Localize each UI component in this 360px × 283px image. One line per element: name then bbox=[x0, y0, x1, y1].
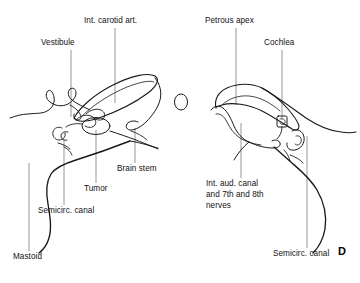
semicircular-canal-loop-a bbox=[53, 127, 65, 140]
iac-inner-contour bbox=[216, 114, 261, 145]
label-cochlea: Cochlea bbox=[264, 38, 294, 49]
semicircular-canal-loop-b bbox=[61, 132, 68, 141]
label-int-aud-canal-line2: and 7th and 8th bbox=[206, 190, 264, 201]
isolated-oval-structure bbox=[175, 94, 188, 110]
mastoid-air-cell-mark bbox=[64, 147, 72, 155]
right-panel-anatomy bbox=[211, 84, 356, 253]
mastoid-skin-contour-right bbox=[274, 147, 326, 253]
neck-line-left-panel bbox=[130, 141, 158, 149]
label-semicirc-canal-right: Semicirc. canal bbox=[273, 249, 329, 260]
panel-letter-d: D bbox=[338, 245, 346, 257]
cochlea-stem bbox=[277, 127, 282, 139]
iac-left-panel bbox=[66, 124, 82, 127]
label-mastoid: Mastoid bbox=[13, 252, 42, 263]
anatomy-figure: Vestibule Int. carotid art. Petrous apex… bbox=[0, 0, 360, 283]
label-int-carotid-art: Int. carotid art. bbox=[84, 16, 137, 27]
label-tumor: Tumor bbox=[84, 184, 108, 195]
label-vestibule: Vestibule bbox=[41, 38, 75, 49]
label-petrous-apex: Petrous apex bbox=[205, 16, 254, 27]
iac-outer-contour bbox=[211, 106, 280, 148]
semicircular-canal-posterior bbox=[290, 155, 303, 163]
label-brain-stem: Brain stem bbox=[117, 164, 157, 175]
posterior-fossa-contour bbox=[10, 88, 90, 118]
label-int-aud-canal-line1: Int. aud. canal bbox=[206, 179, 258, 190]
semicircular-canal-inner bbox=[295, 136, 301, 145]
mastoid-skin-contour bbox=[39, 141, 130, 253]
label-semicirc-canal-left: Semicirc. canal bbox=[38, 206, 94, 217]
leader-lines bbox=[29, 28, 307, 251]
skull-base-ridge-right bbox=[262, 88, 356, 133]
label-int-aud-canal-line3: nerves bbox=[206, 201, 231, 212]
right-panel-base-line bbox=[234, 142, 249, 160]
